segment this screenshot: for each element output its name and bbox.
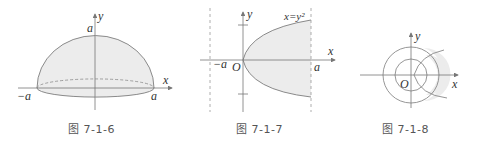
top-label: a	[87, 21, 93, 35]
x-axis-label: x	[451, 77, 458, 91]
figure-7-1-6: y a x −a a 图 7-1-6	[0, 0, 180, 149]
parabola-region-diagram: y x=y² x −a O a	[180, 0, 340, 120]
caption-7-1-7: 图 7-1-7	[236, 120, 283, 136]
origin-label: O	[232, 60, 241, 74]
caption-7-1-6: 图 7-1-6	[68, 120, 115, 136]
y-axis-label: y	[414, 29, 421, 43]
figure-7-1-7: y x=y² x −a O a 图 7-1-7	[180, 0, 340, 149]
right-label: a	[314, 60, 320, 74]
x-axis-label: x	[162, 73, 169, 87]
x-axis-label: x	[327, 44, 334, 58]
concentric-circles-diagram: y x O	[340, 0, 478, 120]
left-label: −a	[17, 89, 31, 103]
curve-label: x=y²	[283, 10, 305, 22]
left-label: −a	[213, 57, 227, 71]
hemisphere-diagram: y a x −a a	[0, 0, 180, 120]
caption-7-1-8: 图 7-1-8	[382, 120, 429, 136]
y-axis-label: y	[97, 9, 104, 23]
y-axis-label: y	[246, 7, 253, 21]
right-label: a	[151, 89, 157, 103]
figure-7-1-8: y x O 图 7-1-8	[340, 0, 478, 149]
origin-label: O	[400, 77, 409, 91]
